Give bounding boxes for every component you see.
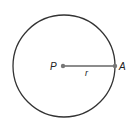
center-label: P (50, 61, 57, 72)
center-point (61, 64, 65, 68)
point-a (113, 64, 117, 68)
circle-diagram: P r A (0, 0, 134, 124)
radius-label: r (85, 68, 89, 78)
point-label: A (118, 61, 126, 72)
